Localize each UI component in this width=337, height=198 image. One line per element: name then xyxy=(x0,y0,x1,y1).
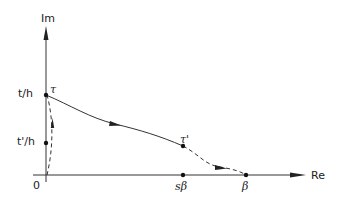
x-point-label-beta: β xyxy=(241,180,248,193)
origin-label: 0 xyxy=(33,179,40,192)
imaginary-axis xyxy=(44,26,49,182)
point-beta xyxy=(244,173,248,177)
point-t-prime-over-h xyxy=(44,141,48,145)
solid-path-tau-to-tau-prime xyxy=(46,95,183,146)
x-point-label-s-beta: sβ xyxy=(175,180,187,193)
real-axis-label: Re xyxy=(311,169,325,182)
y-tick-label-t-prime-over-h: t'/h xyxy=(17,135,35,148)
imaginary-axis-arrow-icon xyxy=(44,26,49,40)
dashed-path-origin-to-tau xyxy=(47,95,52,175)
point-s-beta xyxy=(181,173,185,177)
point-label-tau: τ xyxy=(50,83,57,96)
point-label-tau-prime: τ' xyxy=(180,133,189,146)
y-tick-label-t-over-h: t/h xyxy=(18,87,33,100)
dashed-path-tau-prime-to-beta xyxy=(183,146,246,175)
solid-path-arrow-icon xyxy=(109,121,121,126)
real-axis xyxy=(33,173,306,178)
imaginary-axis-label: Im xyxy=(41,12,55,25)
contour-diagram: Im Re 0 t/h t'/h τ τ' sβ β xyxy=(0,0,337,198)
real-axis-arrow-icon xyxy=(290,173,306,178)
dashed-path-arrow-icon xyxy=(215,165,227,170)
point-tau xyxy=(44,93,48,97)
